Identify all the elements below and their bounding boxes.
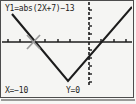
trace-x-readout: X=−10	[5, 86, 28, 95]
trace-y-readout: Y=0	[66, 86, 80, 95]
equation-label: Y1=abs(2X+7)−13	[5, 4, 74, 13]
bezel-shadow	[1, 99, 135, 101]
y-axis-ticks	[89, 10, 92, 82]
graph-plot-area[interactable]	[2, 2, 132, 96]
calculator-screenshot: Y1=abs(2X+7)−13 X=−10 Y=0	[0, 0, 136, 104]
function-curve-y1	[12, 7, 132, 81]
graph-svg	[2, 2, 132, 96]
